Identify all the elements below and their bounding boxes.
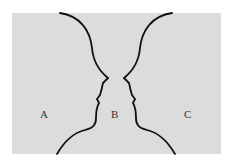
left-face-profile [57,13,108,154]
right-face-profile [124,13,175,154]
label-b: B [111,108,118,120]
label-c: C [184,108,191,120]
label-a: A [40,108,48,120]
face-profiles-drawing [0,0,231,163]
